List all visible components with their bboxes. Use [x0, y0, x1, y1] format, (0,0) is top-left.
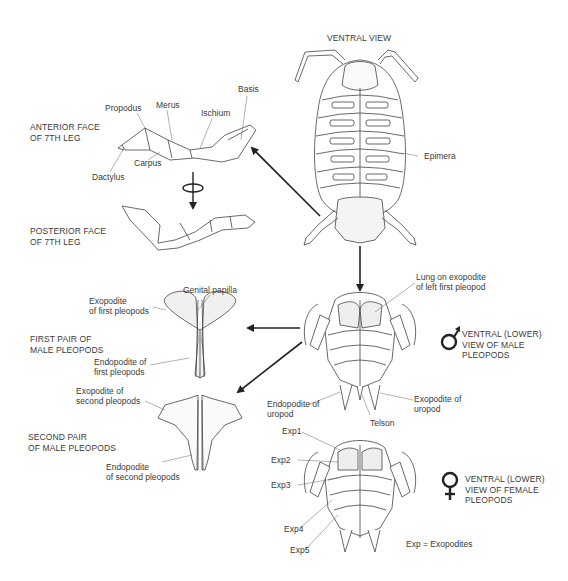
label-exopodite-second: Exopodite of second pleopods: [76, 386, 140, 406]
isopod-anatomy-diagram: VENTRAL VIEW ANTERIOR FACE OF 7TH LEG PO…: [0, 0, 568, 581]
label-ischium: Ischium: [201, 108, 230, 118]
label-exp2: Exp2: [271, 455, 290, 465]
label-epimera: Epimera: [424, 151, 456, 161]
caption-female-view: VENTRAL (LOWER) VIEW OF FEMALE PLEOPODS: [465, 474, 545, 506]
label-propodus: Propodus: [105, 103, 141, 113]
female-symbol-icon: [440, 470, 460, 502]
caption-anterior-face: ANTERIOR FACE OF 7TH LEG: [30, 122, 100, 143]
label-basis: Basis: [238, 84, 259, 94]
label-exp4: Exp4: [284, 524, 303, 534]
first-male-pleopods-illustration: [164, 291, 236, 378]
caption-second-pair: SECOND PAIR OF MALE PLEOPODS: [28, 432, 116, 453]
label-dactylus: Dactylus: [92, 172, 125, 182]
label-exopodite-first: Exopodite of first pleopods: [89, 296, 149, 316]
caption-ventral-view: VENTRAL VIEW: [327, 33, 391, 44]
caption-posterior-face: POSTERIOR FACE OF 7TH LEG: [30, 226, 106, 247]
label-genital-papilla: Genital papilla: [183, 285, 237, 295]
male-symbol-icon: [440, 324, 462, 352]
female-pleon-illustration: [304, 441, 415, 553]
label-carpus: Carpus: [134, 158, 161, 168]
legend-exopodites: Exp = Exopodites: [406, 539, 472, 549]
label-exp3: Exp3: [271, 480, 290, 490]
label-exp5: Exp5: [290, 545, 309, 555]
label-telson: Telson: [370, 418, 395, 428]
label-exp1: Exp1: [282, 426, 301, 436]
rotate-icon: [183, 172, 203, 208]
second-male-pleopods-illustration: [158, 395, 242, 470]
posterior-leg-illustration: [122, 206, 255, 250]
caption-male-view: VENTRAL (LOWER) VIEW OF MALE PLEOPODS: [462, 329, 542, 361]
anterior-leg-illustration: [118, 125, 256, 162]
label-endopodite-uropod: Endopodite of uropod: [267, 399, 319, 419]
label-endopodite-first: Endopodite of first pleopods: [94, 357, 146, 377]
label-lung: Lung on exopodite of left first pleopod: [416, 272, 486, 292]
ventral-body-illustration: [295, 50, 418, 245]
caption-first-pair: FIRST PAIR OF MALE PLEOPODS: [30, 334, 104, 355]
male-pleon-illustration: [304, 293, 415, 411]
label-exopodite-uropod: Exopodite of uropod: [414, 394, 461, 414]
label-endopodite-second: Endopodite of second pleopods: [106, 462, 180, 482]
label-merus: Merus: [156, 100, 180, 110]
